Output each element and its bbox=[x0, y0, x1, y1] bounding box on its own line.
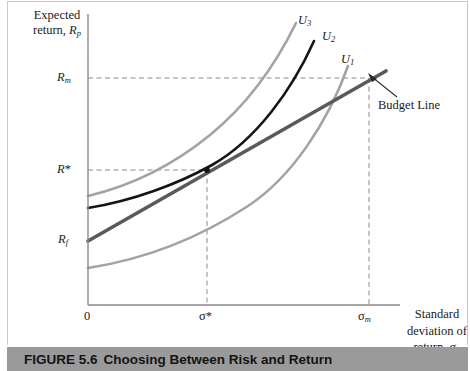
risk-return-plot bbox=[0, 0, 470, 371]
curve-label-u3: U3 bbox=[298, 13, 311, 28]
y-axis-title: Expected return, Rp bbox=[18, 8, 96, 38]
x-tick-label-sigmastar: σ* bbox=[199, 309, 212, 324]
figure-container: Expected return, Rp Standard deviation o… bbox=[0, 0, 470, 371]
curve-u2 bbox=[88, 41, 314, 208]
budget-line bbox=[88, 71, 386, 241]
budget-line-label: Budget Line bbox=[378, 98, 440, 113]
x-tick-label-sigmam: σm bbox=[358, 309, 371, 324]
x-tick-label-zero: 0 bbox=[84, 309, 90, 324]
curve-label-u1: U1 bbox=[341, 52, 354, 67]
x-axis-title-line1: Standard bbox=[415, 307, 459, 321]
figure-caption: FIGURE 5.6Choosing Between Risk and Retu… bbox=[24, 352, 332, 367]
y-axis-title-line2: return, Rp bbox=[33, 23, 81, 37]
budget-line-arrow bbox=[368, 73, 397, 97]
curve-label-u2: U2 bbox=[322, 29, 335, 44]
y-tick-label-rm: Rm bbox=[57, 70, 71, 85]
tangency-point bbox=[204, 167, 210, 173]
figure-caption-number: FIGURE 5.6 bbox=[24, 352, 98, 367]
x-axis-title-line2: deviation of bbox=[407, 324, 467, 338]
y-tick-label-rf: Rf bbox=[58, 232, 68, 247]
figure-caption-title: Choosing Between Risk and Return bbox=[104, 352, 333, 367]
y-tick-label-rstar: R* bbox=[57, 162, 71, 177]
y-axis-title-line1: Expected bbox=[34, 8, 81, 22]
